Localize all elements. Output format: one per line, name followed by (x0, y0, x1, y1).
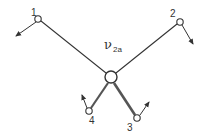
displacement-arrow-1 (16, 22, 36, 36)
displacement-arrow-4 (82, 95, 87, 108)
displacement-arrow-3 (140, 102, 149, 115)
atom-label-2: 2 (170, 8, 176, 19)
bond-3 (114, 83, 135, 115)
mode-symbol: ν (104, 37, 112, 52)
atom-label-3: 3 (127, 122, 133, 133)
displacement-arrow-2 (182, 25, 193, 44)
vibration-mode-diagram: 1 2 3 4 ν 2a (0, 0, 205, 137)
atom-label-1: 1 (31, 7, 37, 18)
bond-1 (41, 21, 106, 73)
bond-2 (116, 24, 177, 73)
atom-3 (134, 115, 140, 121)
atom-label-4: 4 (89, 115, 95, 126)
center-atom (105, 71, 117, 83)
mode-subscript: 2a (113, 45, 122, 54)
atom-4 (86, 108, 92, 114)
atom-2 (177, 19, 183, 25)
bond-4 (91, 83, 108, 108)
